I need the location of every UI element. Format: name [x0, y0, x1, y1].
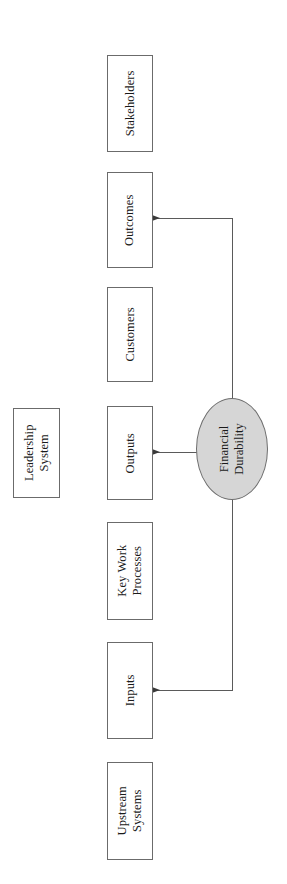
node-key-work-processes[interactable]: Key Work Processes: [107, 522, 153, 620]
node-inputs-label: Inputs: [123, 675, 138, 707]
connector-hub-to-outputs-arrowhead: [152, 449, 160, 455]
hub-financial-durability[interactable]: Financial Durability: [196, 398, 268, 500]
node-stakeholders-label-line1: Stakeholders: [123, 71, 137, 137]
hub-label-line1: Financial: [217, 426, 231, 473]
node-key-work-processes-label-line1: Key Work: [115, 545, 129, 597]
node-customers[interactable]: Customers: [107, 287, 153, 382]
diagram-canvas: Financial Durability Stakeholders Outcom…: [0, 0, 287, 884]
node-outcomes-label: Outcomes: [123, 194, 138, 245]
node-outputs-label: Outputs: [123, 433, 138, 473]
node-outcomes-label-line1: Outcomes: [123, 194, 137, 245]
hub-label: Financial Durability: [217, 423, 247, 474]
node-upstream-systems-label-line1: Upstream: [115, 786, 129, 835]
node-inputs-label-line1: Inputs: [123, 675, 137, 707]
node-stakeholders[interactable]: Stakeholders: [107, 55, 153, 152]
connector-hub-to-outcomes-arrowhead: [152, 215, 160, 221]
connector-hub-to-outcomes-vertical: [232, 218, 233, 400]
node-upstream-systems-label: Upstream Systems: [115, 786, 145, 835]
node-inputs[interactable]: Inputs: [107, 642, 153, 739]
node-customers-label: Customers: [123, 307, 138, 361]
node-customers-label-line1: Customers: [123, 307, 137, 361]
connector-hub-to-outcomes-horizontal: [157, 218, 233, 219]
connector-hub-to-inputs-vertical: [232, 498, 233, 690]
node-upstream-systems-label-line2: Systems: [130, 790, 144, 832]
node-leadership-system[interactable]: Leadership System: [13, 408, 60, 498]
connector-hub-to-inputs-horizontal: [157, 690, 233, 691]
hub-label-line2: Durability: [232, 423, 246, 474]
node-key-work-processes-label-line2: Processes: [130, 546, 144, 596]
node-leadership-system-label-line2: System: [37, 434, 51, 471]
connector-hub-to-inputs-arrowhead: [152, 687, 160, 693]
node-leadership-system-label: Leadership System: [22, 425, 52, 482]
node-leadership-system-label-line1: Leadership: [22, 425, 36, 482]
node-outputs[interactable]: Outputs: [107, 406, 153, 500]
node-outputs-label-line1: Outputs: [123, 433, 137, 473]
node-key-work-processes-label: Key Work Processes: [115, 545, 145, 597]
node-upstream-systems[interactable]: Upstream Systems: [107, 762, 153, 860]
node-outcomes[interactable]: Outcomes: [107, 172, 153, 268]
node-stakeholders-label: Stakeholders: [123, 71, 138, 137]
